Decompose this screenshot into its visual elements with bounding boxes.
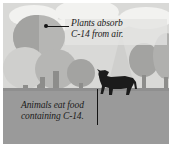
bottom-leader-line <box>97 89 98 125</box>
figure-canvas: Plants absorb C-14 from air. Animals eat… <box>0 0 172 147</box>
top-label-line2: C-14 from air. <box>71 29 123 40</box>
illustration-frame: Plants absorb C-14 from air. Animals eat… <box>3 3 169 144</box>
bottom-label-line1: Animals eat food <box>21 100 84 111</box>
top-label-line1: Plants absorb <box>71 18 123 29</box>
bottom-label-line2: containing C-14. <box>21 111 84 122</box>
top-leader-line <box>47 26 69 27</box>
cow <box>91 67 141 97</box>
